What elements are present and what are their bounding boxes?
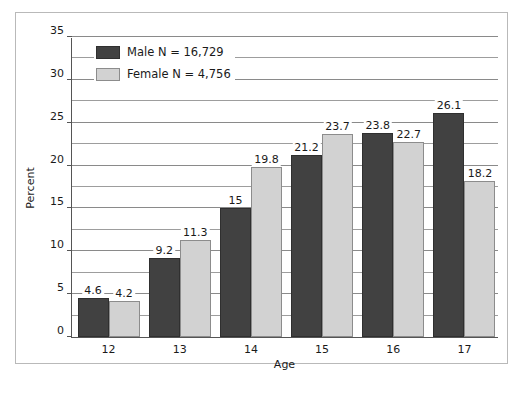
bar-value-label: 23.7: [323, 121, 352, 133]
y-axis-title: Percent: [24, 167, 37, 208]
y-tick-mark: [67, 250, 72, 251]
legend-label-male: Male N = 16,729: [127, 45, 224, 59]
y-tick-mark: [67, 79, 72, 80]
gridline: [72, 36, 498, 37]
x-tick-label-12: 12: [102, 343, 116, 356]
x-tick-label-13: 13: [173, 343, 187, 356]
bar-group-age-14: 1519.814: [220, 38, 282, 337]
bar-male-age-16[interactable]: 23.8: [362, 133, 393, 337]
y-tick-label: 30: [50, 66, 64, 79]
bar-value-label: 19.8: [252, 154, 281, 166]
bar-value-label: 4.2: [113, 288, 135, 300]
bar-female-age-13[interactable]: 11.3: [180, 240, 211, 337]
bar-group-age-17: 26.118.217: [433, 38, 495, 337]
bar-male-age-12[interactable]: 4.6: [78, 298, 109, 337]
legend-label-female: Female N = 4,756: [127, 67, 231, 81]
bar-group-age-15: 21.223.715: [291, 38, 353, 337]
bar-female-age-12[interactable]: 4.2: [109, 301, 140, 337]
bar-value-label: 22.7: [395, 129, 424, 141]
bar-female-age-17[interactable]: 18.2: [464, 181, 495, 337]
bar-female-age-14[interactable]: 19.8: [251, 167, 282, 337]
bar-value-label: 4.6: [82, 285, 104, 297]
legend-swatch-male-icon: [96, 46, 120, 59]
bar-male-age-17[interactable]: 26.1: [433, 113, 464, 337]
bar-value-label: 11.3: [181, 227, 210, 239]
x-tick-label-14: 14: [244, 343, 258, 356]
y-tick-label: 5: [57, 281, 64, 294]
y-tick-mark: [67, 36, 72, 37]
x-tick-label-17: 17: [457, 343, 471, 356]
bar-value-label: 9.2: [154, 245, 176, 257]
legend-item-male: Male N = 16,729: [94, 44, 235, 60]
y-tick-label: 15: [50, 195, 64, 208]
legend-swatch-female-icon: [96, 68, 120, 81]
bar-female-age-15[interactable]: 23.7: [322, 134, 353, 337]
bar-male-age-13[interactable]: 9.2: [149, 258, 180, 337]
x-tick-label-15: 15: [315, 343, 329, 356]
bar-male-age-14[interactable]: 15: [220, 208, 251, 337]
bar-group-age-16: 23.822.716: [362, 38, 424, 337]
y-tick-mark: [67, 122, 72, 123]
y-tick-label: 35: [50, 24, 64, 37]
y-tick-mark: [67, 207, 72, 208]
y-tick-mark: [67, 165, 72, 166]
plot-area: 05101520253035 4.64.2129.211.3131519.814…: [71, 38, 498, 338]
y-tick-mark: [67, 336, 72, 337]
bar-value-label: 15: [226, 195, 244, 207]
bar-value-label: 26.1: [435, 100, 464, 112]
bar-value-label: 21.2: [292, 142, 321, 154]
bar-value-label: 23.8: [364, 120, 393, 132]
bar-female-age-16[interactable]: 22.7: [393, 142, 424, 337]
y-tick-label: 0: [57, 324, 64, 337]
y-tick-label: 25: [50, 109, 64, 122]
x-axis-title: Age: [71, 358, 498, 371]
bar-group-age-12: 4.64.212: [78, 38, 140, 337]
y-tick-label: 20: [50, 152, 64, 165]
bar-value-label: 18.2: [466, 168, 495, 180]
bar-male-age-15[interactable]: 21.2: [291, 155, 322, 337]
x-tick-label-16: 16: [386, 343, 400, 356]
chart-legend: Male N = 16,729 Female N = 4,756: [94, 44, 235, 82]
legend-item-female: Female N = 4,756: [94, 66, 235, 82]
bar-group-age-13: 9.211.313: [149, 38, 211, 337]
y-tick-mark: [67, 293, 72, 294]
figure-frame: Percent 05101520253035 4.64.2129.211.313…: [15, 12, 508, 364]
y-tick-label: 10: [50, 238, 64, 251]
